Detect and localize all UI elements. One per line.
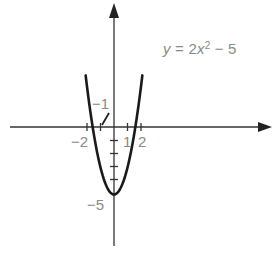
x-tick-label-neg2: −2 [71,134,88,149]
x-axis-arrow-icon [258,122,272,132]
equation-label: y = 2x2 − 5 [163,40,237,57]
y-tick-label-neg1: −1 [92,96,109,111]
x-tick-label-1: 1 [123,134,131,149]
equation-eq: = 2 [171,40,197,57]
equation-rest: − 5 [210,40,236,57]
x-tick-label-2: 2 [138,134,146,149]
equation-lhs: y [163,40,171,57]
y-axis-arrow-icon [109,3,119,18]
label-pointer [102,113,109,125]
y-tick-label-neg5: −5 [87,197,104,212]
equation-var: x [197,40,205,57]
